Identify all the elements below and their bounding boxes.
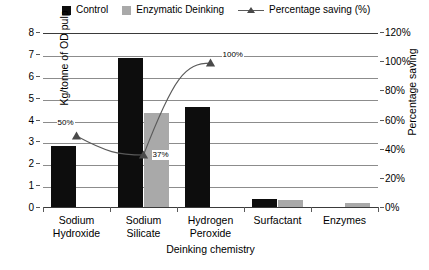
x-axis-title: Deinking chemistry [43,243,378,255]
y-tick-label-right: 60% [385,116,405,126]
percentage-saving-line-series [43,34,378,209]
line-marker-sodium-silicate [139,150,148,158]
category-label-line: Sodium [43,214,110,227]
y-tick-label-right: 0% [385,203,399,213]
category-label-line: Hydroxide [43,227,110,240]
axis-tick-start [43,207,44,212]
y-tick-label-left: 7 [12,50,34,60]
y-tick-label-left: 5 [12,94,34,104]
category-label-sodium-silicate: SodiumSilicate [110,214,177,239]
y-tick-label-left: 4 [12,116,34,126]
y-tick-label-left: 1 [12,181,34,191]
legend-label-control: Control [76,5,108,15]
y-tick-label-left: 8 [12,28,34,38]
line-marker-sodium-hydroxide [72,131,81,139]
category-separator [244,207,245,212]
category-label-enzymes: Enzymes [311,214,378,227]
category-label-line: Sodium [110,214,177,227]
y-tick-label-left: 3 [12,137,34,147]
y-tick-label-left: 0 [12,203,34,213]
category-label-line: Silicate [110,227,177,240]
y-tick-label-right: 20% [385,174,405,184]
point-label-sodium-silicate: 37% [152,150,170,160]
point-label-hydrogen-peroxide: 100% [222,50,244,60]
category-label-hydrogen-peroxide: HydrogenPeroxide [177,214,244,239]
line-marker-hydrogen-peroxide [206,59,215,67]
category-label-line: Peroxide [177,227,244,240]
y-axis-left-title: Kg/tonne of OD pulp [58,0,70,128]
y-tick-label-left: 2 [12,159,34,169]
legend-swatch-enzymatic-icon [122,6,131,15]
legend-item-percentage-saving: Percentage saving (%) [238,5,370,15]
chart-legend: Control Enzymatic Deinking Percentage sa… [62,5,370,15]
legend-item-enzymatic-deinking: Enzymatic Deinking [122,5,224,15]
plot-area: 50%37%100% [43,33,378,208]
y-axis-right-title: Percentage saving [406,32,418,152]
y-tick-label-right: 40% [385,145,405,155]
deinking-chemistry-chart: Control Enzymatic Deinking Percentage sa… [0,0,429,270]
legend-label-enzymatic-deinking: Enzymatic Deinking [136,5,224,15]
percentage-saving-line [77,63,211,155]
category-label-surfactant: Surfactant [244,214,311,227]
y-tick-label-right: 80% [385,86,405,96]
category-label-sodium-hydroxide: SodiumHydroxide [43,214,110,239]
category-separator [110,207,111,212]
x-axis-category-labels: SodiumHydroxideSodiumSilicateHydrogenPer… [43,214,378,244]
legend-line-marker-icon [238,6,264,15]
category-label-line: Surfactant [244,214,311,227]
axis-tick-end [378,207,379,212]
category-label-line: Hydrogen [177,214,244,227]
category-separator [311,207,312,212]
category-label-line: Enzymes [311,214,378,227]
y-tick-label-left: 6 [12,72,34,82]
legend-label-percentage-saving: Percentage saving (%) [269,5,370,15]
category-separator [177,207,178,212]
